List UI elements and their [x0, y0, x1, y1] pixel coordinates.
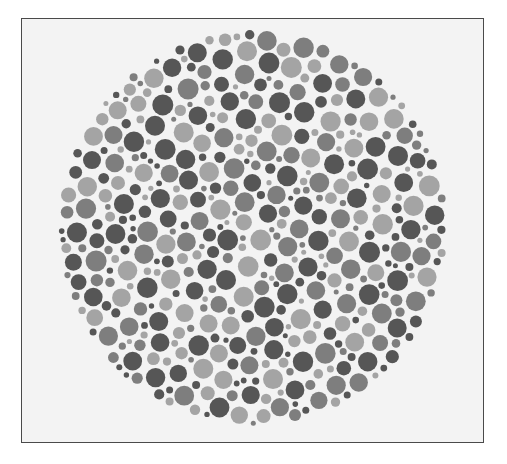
plate-dot	[173, 327, 185, 339]
plate-dot	[360, 112, 379, 131]
plate-dot	[193, 359, 213, 379]
plate-dot	[214, 371, 232, 389]
plate-dot	[369, 88, 388, 107]
plate-dot	[315, 343, 336, 364]
plate-dot	[61, 243, 71, 253]
plate-dot	[171, 117, 176, 122]
plate-dot	[199, 244, 205, 250]
plate-dot	[314, 301, 332, 319]
plate-dot	[78, 307, 85, 314]
plate-dot	[132, 154, 139, 161]
plate-dot	[326, 248, 343, 265]
plate-dot	[223, 253, 233, 263]
plate-dot	[174, 386, 194, 406]
plate-dot	[409, 121, 417, 129]
plate-dot	[214, 77, 229, 92]
plate-dot	[309, 173, 329, 193]
plate-dot	[201, 386, 215, 400]
plate-dot	[72, 292, 80, 300]
plate-dot	[427, 159, 437, 169]
plate-dot	[277, 219, 287, 229]
plate-dot	[162, 255, 174, 267]
plate-dot	[187, 102, 192, 107]
plate-dot	[96, 113, 108, 125]
plate-dot	[346, 89, 365, 108]
plate-dot	[222, 317, 240, 335]
plate-dot	[405, 263, 413, 271]
plate-dot	[175, 45, 184, 54]
plate-dot	[236, 134, 243, 141]
plate-dot	[344, 113, 356, 125]
plate-dot	[191, 212, 209, 230]
plate-dot	[323, 262, 328, 267]
plate-dot	[298, 257, 317, 276]
plate-dot	[199, 162, 219, 182]
plate-dot	[291, 309, 311, 329]
plate-dot	[327, 273, 341, 287]
plate-dot	[76, 199, 96, 219]
plate-dot	[130, 184, 141, 195]
plate-dot	[337, 294, 356, 313]
plate-dot	[201, 81, 210, 90]
plate-dot	[385, 260, 391, 266]
plate-dot	[148, 158, 153, 163]
plate-dot	[174, 122, 194, 142]
plate-dot	[154, 163, 160, 169]
plate-dot	[390, 95, 395, 100]
plate-dot	[154, 258, 160, 264]
plate-dot	[290, 220, 309, 239]
plate-dot	[351, 63, 358, 70]
plate-dot	[354, 68, 372, 86]
plate-dot	[73, 149, 82, 158]
plate-dot	[396, 216, 404, 224]
plate-dot	[303, 187, 310, 194]
plate-dot	[251, 421, 256, 426]
plate-dot	[210, 112, 216, 118]
plate-dot	[86, 251, 107, 272]
plate-dot	[388, 146, 408, 166]
plate-dot	[335, 340, 342, 347]
plate-dot	[288, 335, 300, 347]
plate-dot	[112, 288, 131, 307]
plate-dot	[267, 76, 272, 81]
plate-dot	[278, 390, 284, 396]
plate-dot	[285, 352, 290, 357]
plate-dot	[319, 253, 325, 259]
plate-dot	[146, 139, 151, 144]
plate-dot	[299, 299, 304, 304]
plate-dot	[286, 324, 291, 329]
plate-dot	[316, 195, 323, 202]
plate-dot	[301, 148, 320, 167]
plate-dot	[233, 84, 238, 89]
plate-dot	[273, 281, 279, 287]
plate-dot	[200, 304, 207, 311]
plate-dot	[300, 74, 309, 83]
plate-dot	[91, 274, 103, 286]
plate-dot	[211, 334, 220, 343]
plate-dot	[308, 231, 328, 251]
plate-dot	[170, 365, 187, 382]
plate-dot	[210, 398, 230, 418]
plate-dot	[257, 142, 277, 162]
plate-dot	[188, 357, 194, 363]
plate-dot	[116, 364, 122, 370]
plate-dot	[313, 321, 321, 329]
plate-dot	[239, 243, 247, 251]
plate-dot	[302, 407, 309, 414]
plate-dot	[254, 78, 267, 91]
plate-dot	[350, 130, 356, 136]
plate-dot	[234, 34, 241, 41]
plate-dot	[378, 282, 385, 289]
plate-dot	[207, 246, 219, 258]
plate-dot	[204, 96, 214, 106]
plate-dot	[257, 31, 277, 51]
plate-dot	[235, 65, 254, 84]
plate-dot	[210, 200, 230, 220]
plate-dot	[148, 186, 153, 191]
plate-dot	[184, 267, 194, 277]
plate-dot	[327, 366, 334, 373]
plate-dot	[199, 154, 206, 161]
plate-dot	[365, 230, 375, 240]
plate-dot	[292, 257, 298, 263]
plate-dot	[223, 181, 238, 196]
